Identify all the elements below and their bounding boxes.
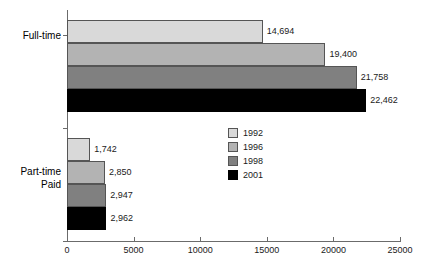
bar <box>67 161 105 184</box>
legend-label: 1992 <box>243 128 263 138</box>
bar-value-label: 22,462 <box>370 95 398 105</box>
y-axis-tick <box>63 128 68 129</box>
bar <box>67 43 325 66</box>
bar <box>67 207 106 230</box>
x-axis-tick <box>200 237 201 242</box>
bar <box>67 89 366 112</box>
bar <box>67 184 106 207</box>
bar-chart: 0500010000150002000025000 14,69419,40021… <box>0 0 427 278</box>
x-axis-tick <box>134 237 135 242</box>
category-label: Full-time <box>23 29 61 42</box>
bar <box>67 138 90 161</box>
x-axis-tick <box>333 237 334 242</box>
legend-swatch <box>228 170 238 180</box>
bar <box>67 66 357 89</box>
chart-title <box>80 0 360 2</box>
x-axis-tick-label: 20000 <box>321 245 346 255</box>
legend: 1992199619982001 <box>228 126 263 182</box>
legend-swatch <box>228 156 238 166</box>
bar <box>67 20 263 43</box>
legend-swatch <box>228 142 238 152</box>
x-axis-tick <box>67 237 68 242</box>
x-axis-tick-label: 25000 <box>387 245 412 255</box>
legend-label: 1998 <box>243 156 263 166</box>
x-axis-tick-label: 10000 <box>188 245 213 255</box>
category-label-line: Paid <box>20 178 61 191</box>
legend-item: 1992 <box>228 126 263 139</box>
bar-value-label: 2,947 <box>110 190 133 200</box>
legend-item: 1996 <box>228 140 263 153</box>
legend-item: 2001 <box>228 168 263 181</box>
bar-value-label: 1,742 <box>94 144 117 154</box>
legend-swatch <box>228 128 238 138</box>
bar-value-label: 21,758 <box>361 72 389 82</box>
bar-value-label: 14,694 <box>267 26 295 36</box>
x-axis-tick-label: 15000 <box>254 245 279 255</box>
category-label-line: Full-time <box>23 29 61 42</box>
category-label-line: Part-time <box>20 165 61 178</box>
x-axis-tick-label: 5000 <box>124 245 144 255</box>
bar-value-label: 2,850 <box>109 167 132 177</box>
x-axis-tick <box>400 237 401 242</box>
legend-item: 1998 <box>228 154 263 167</box>
x-axis-line <box>67 241 400 242</box>
bar-value-label: 19,400 <box>329 49 357 59</box>
bar-value-label: 2,962 <box>110 213 133 223</box>
category-label: Part-timePaid <box>20 165 61 191</box>
x-axis-tick <box>267 237 268 242</box>
legend-label: 1996 <box>243 142 263 152</box>
legend-label: 2001 <box>243 170 263 180</box>
x-axis-tick-label: 0 <box>64 245 69 255</box>
